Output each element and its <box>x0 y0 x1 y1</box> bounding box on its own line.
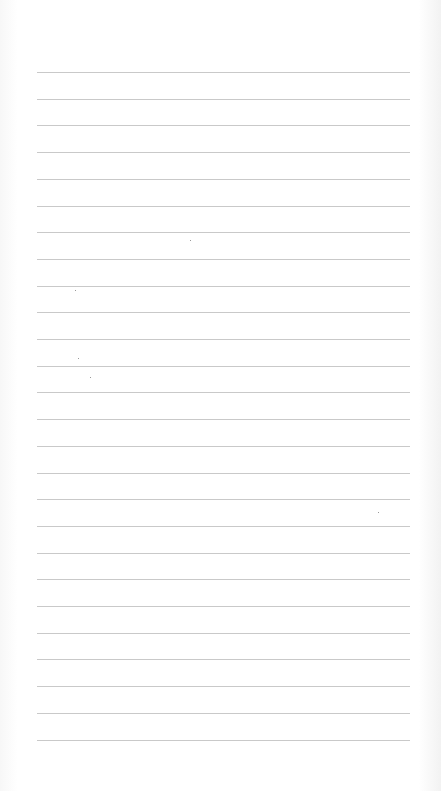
ruled-line <box>37 366 410 367</box>
ruled-line <box>37 606 410 607</box>
paper-speck <box>378 512 379 513</box>
ruled-line <box>37 312 410 313</box>
ruled-line <box>37 713 410 714</box>
ruled-line <box>37 446 410 447</box>
ruled-line <box>37 286 410 287</box>
ruled-line <box>37 633 410 634</box>
lined-paper-sheet <box>0 0 441 791</box>
ruled-line <box>37 259 410 260</box>
ruled-line <box>37 499 410 500</box>
paper-speck <box>78 358 79 359</box>
ruled-line <box>37 553 410 554</box>
ruled-line <box>37 579 410 580</box>
ruled-line <box>37 473 410 474</box>
ruled-line <box>37 232 410 233</box>
ruled-line <box>37 152 410 153</box>
ruled-line <box>37 740 410 741</box>
ruled-line <box>37 72 410 73</box>
ruled-line <box>37 206 410 207</box>
paper-speck <box>190 240 191 241</box>
paper-speck <box>90 377 91 378</box>
ruled-line <box>37 686 410 687</box>
ruled-line <box>37 526 410 527</box>
paper-speck <box>75 290 76 291</box>
ruled-line <box>37 659 410 660</box>
ruled-line <box>37 339 410 340</box>
ruled-line <box>37 392 410 393</box>
ruled-line <box>37 125 410 126</box>
ruled-line <box>37 179 410 180</box>
ruled-line <box>37 99 410 100</box>
ruled-line <box>37 419 410 420</box>
